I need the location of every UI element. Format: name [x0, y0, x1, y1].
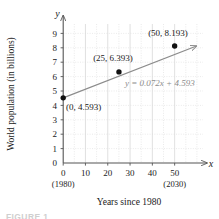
data-point[interactable] [172, 43, 177, 48]
x-tick-sublabel-2030: (2030) [163, 179, 186, 189]
y-tick-label: 5 [53, 86, 58, 96]
y-axis-variable: y [54, 8, 60, 19]
x-tick-label: 40 [148, 168, 158, 178]
x-tick-label: 30 [126, 168, 136, 178]
y-tick-label: 4 [53, 101, 58, 111]
y-axis-tick-labels: 0 1 2 3 4 5 6 7 8 9 [53, 29, 58, 169]
data-point-label-25: (25, 6.393) [93, 53, 133, 63]
y-tick-label: 0 [53, 158, 58, 168]
regression-equation-label: y = 0.072x + 4.593 [124, 78, 195, 88]
y-tick-label: 3 [53, 115, 58, 125]
data-point-label-50: (50, 8.193) [148, 28, 188, 38]
chart-grid-vertical [74, 24, 197, 163]
x-axis-year-sublabels: (1980) (2030) [52, 179, 186, 189]
figure-container: 0 1 2 3 4 5 6 7 8 9 0 10 20 30 40 50 (19… [0, 0, 219, 219]
y-tick-label: 6 [53, 72, 58, 82]
x-tick-label: 20 [103, 168, 113, 178]
data-point[interactable] [61, 95, 66, 100]
x-tick-sublabel-1980: (1980) [52, 179, 75, 189]
x-axis-title: Years since 1980 [97, 197, 162, 207]
x-tick-label: 10 [81, 168, 91, 178]
y-tick-label: 8 [53, 43, 58, 53]
chart-grid-vertical-major [85, 24, 174, 163]
y-tick-label: 2 [53, 129, 58, 139]
x-tick-label: 0 [61, 168, 66, 178]
figure-caption: FIGURE 1 [6, 212, 48, 219]
x-axis-tick-labels: 0 10 20 30 40 50 [61, 168, 180, 178]
data-point[interactable] [116, 69, 121, 74]
y-tick-label: 1 [53, 144, 58, 154]
data-point-label-0: (0, 4.593) [66, 102, 101, 112]
population-line-chart: 0 1 2 3 4 5 6 7 8 9 0 10 20 30 40 50 (19… [0, 0, 219, 219]
y-tick-label: 7 [53, 57, 58, 67]
y-tick-label: 9 [53, 29, 58, 39]
x-axis-variable: x [208, 158, 214, 169]
y-axis-title: World population (in billions) [6, 37, 17, 151]
chart-grid-horizontal [63, 33, 203, 148]
x-tick-label: 50 [170, 168, 180, 178]
